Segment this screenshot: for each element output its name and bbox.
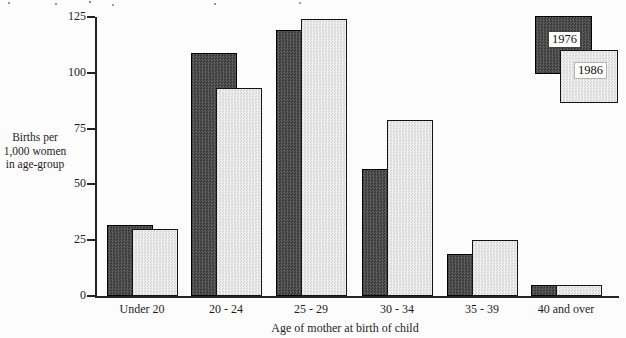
y-axis-line [95, 17, 97, 298]
y-tick-label-50: 50 [40, 176, 86, 190]
y-tick-mark-25 [87, 239, 95, 241]
y-tick-label-25: 25 [40, 232, 86, 246]
y-tick-label-100: 100 [40, 65, 86, 79]
y-tick-mark-50 [87, 183, 95, 185]
x-axis-title: Age of mother at birth of child [95, 321, 595, 336]
y-tick-mark-100 [87, 72, 95, 74]
chart-canvas: Births per 1,000 women in age-group 0255… [0, 0, 626, 338]
y-axis-label-line-2: 1,000 women [0, 145, 70, 159]
scan-artifact-marks [0, 0, 2, 2]
y-tick-label-75: 75 [40, 121, 86, 135]
bar-1986-20---24 [216, 88, 262, 296]
y-tick-label-0: 0 [40, 288, 86, 302]
x-axis-line [95, 296, 619, 298]
y-axis-label: Births per 1,000 women in age-group [0, 131, 70, 172]
bar-1986-30---34 [387, 120, 433, 296]
bar-1986-40-and-over [556, 285, 602, 296]
y-axis-label-line-3: in age-group [0, 158, 70, 172]
y-tick-mark-125 [87, 16, 95, 18]
y-tick-mark-75 [87, 128, 95, 130]
legend-label-1976: 1976 [548, 31, 581, 48]
x-category-label-40-and-over: 40 and over [511, 302, 621, 317]
y-tick-label-125: 125 [40, 9, 86, 23]
y-tick-mark-0 [87, 295, 95, 297]
legend-label-1986: 1986 [574, 62, 607, 79]
bar-1986-25---29 [301, 19, 347, 296]
bar-1986-under-20 [132, 229, 178, 296]
bar-1986-35---39 [472, 240, 518, 296]
